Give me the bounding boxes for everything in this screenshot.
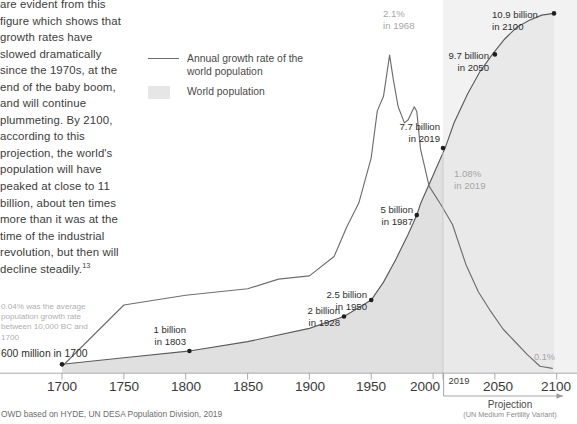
x-axis-label-1950: 1950 <box>356 379 386 394</box>
annotation-year: in 1987 <box>382 216 413 227</box>
annotation-pop-2019: 7.7 billion in 2019 <box>374 121 440 144</box>
annotation-value: 5 billion <box>380 204 413 215</box>
annotation-value: 0.1% <box>534 352 555 362</box>
annotation-year: in 1928 <box>309 317 340 328</box>
data-point-2050 <box>493 52 498 57</box>
data-point-2100 <box>552 11 557 16</box>
chart-svg <box>0 0 577 424</box>
x-axis-label-2000: 2000 <box>410 379 440 394</box>
annotation-growth-pre-1700: 0.04% was the average population growth … <box>1 302 93 343</box>
annotation-pop-1987: 5 billion in 1987 <box>349 204 413 227</box>
x-axis-label-2050: 2050 <box>483 379 513 394</box>
data-point-1928 <box>342 314 347 319</box>
annotation-year: in 2019 <box>454 180 485 191</box>
x-axis-label-1750: 1750 <box>109 379 139 394</box>
x-axis-label-1800: 1800 <box>171 379 201 394</box>
annotation-pop-1928: 2 billion in 1928 <box>284 305 340 328</box>
data-point-1950 <box>369 298 374 303</box>
annotation-pop-1803: 1 billion in 1803 <box>130 324 186 347</box>
annotation-year: in 1968 <box>383 20 414 31</box>
annotation-value: 2 billion <box>307 305 340 316</box>
annotation-text: 0.04% was the average population growth … <box>1 302 88 342</box>
projection-caption-subtitle: (UN Medium Fertility Variant) <box>443 410 577 419</box>
data-point-1987 <box>415 213 420 218</box>
data-point-1803 <box>187 349 192 354</box>
annotation-pop-2050: 9.7 billion in 2050 <box>423 50 489 73</box>
projection-caption: Projection (UN Medium Fertility Variant) <box>443 399 577 419</box>
data-point-1700 <box>60 362 65 367</box>
annotation-value: 1 billion <box>153 324 186 335</box>
annotation-pop-2100: 10.9 billion in 2100 <box>492 9 538 32</box>
x-axis-label-1850: 1850 <box>233 379 263 394</box>
annotation-value: 1.08% <box>454 168 481 179</box>
projection-caption-title: Projection <box>443 399 577 410</box>
annotation-year: in 2019 <box>409 133 440 144</box>
annotation-value: 10.9 billion <box>492 9 538 20</box>
data-point-2019 <box>441 146 446 151</box>
annotation-year: in 1950 <box>336 301 367 312</box>
chart-plot-area[interactable] <box>0 0 577 424</box>
annotation-year: in 2050 <box>458 62 489 73</box>
x-axis-label-1900: 1900 <box>295 379 325 394</box>
x-axis-label-2019: 2019 <box>449 375 470 386</box>
annotation-growth-2019: 1.08% in 2019 <box>454 168 485 191</box>
annotation-year: in 1803 <box>155 336 186 347</box>
annotation-value: 7.7 billion <box>399 121 440 132</box>
x-axis-label-2100: 2100 <box>541 379 571 394</box>
annotation-growth-2100: 0.1% <box>534 352 555 364</box>
annotation-value: 9.7 billion <box>448 50 489 61</box>
annotation-text: 600 million in 1700 <box>1 348 88 359</box>
annotation-growth-peak: 2.1% in 1968 <box>383 8 414 31</box>
annotation-value: 2.5 billion <box>326 289 367 300</box>
x-axis-label-1700: 1700 <box>47 379 77 394</box>
chart-source-note: OWD based on HYDE, UN DESA Population Di… <box>1 409 222 419</box>
annotation-year: in 2100 <box>492 21 523 32</box>
annotation-pop-1700: 600 million in 1700 <box>1 348 88 360</box>
annotation-value: 2.1% <box>383 8 405 19</box>
